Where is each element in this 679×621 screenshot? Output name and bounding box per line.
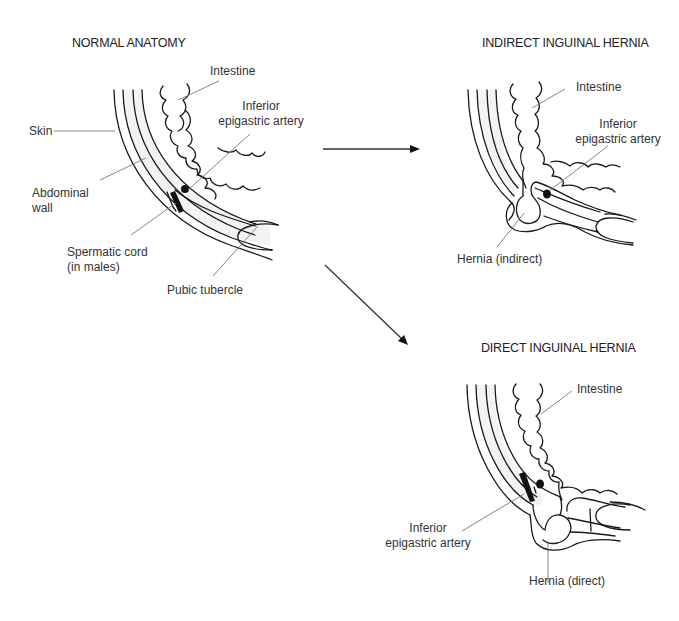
arrow-to-direct — [325, 265, 408, 345]
label-abdominal-wall: Abdominal wall — [32, 186, 89, 216]
label-hernia-indirect: Hernia (indirect) — [457, 252, 542, 267]
label-intestine: Intestine — [210, 64, 255, 79]
label-inferior-epigastric-artery: Inferior epigastric artery — [210, 99, 312, 129]
label-line: wall — [32, 201, 89, 216]
title-indirect-hernia: INDIRECT INGUINAL HERNIA — [482, 36, 649, 50]
label-line: epigastric artery — [210, 114, 312, 129]
label-hernia-direct: Hernia (direct) — [529, 574, 605, 589]
label-inferior-epigastric-artery: Inferior epigastric artery — [567, 117, 669, 147]
label-pubic-tubercle: Pubic tubercle — [167, 283, 243, 298]
label-line: (in males) — [67, 260, 148, 275]
artery-dot — [536, 480, 544, 489]
title-normal-anatomy: NORMAL ANATOMY — [72, 36, 186, 50]
label-skin: Skin — [29, 124, 52, 139]
label-line: Abdominal — [32, 186, 89, 201]
artery-dot — [181, 185, 189, 193]
label-inferior-epigastric-artery: Inferior epigastric artery — [376, 521, 480, 551]
label-intestine: Intestine — [577, 382, 622, 397]
label-line: epigastric artery — [376, 536, 480, 551]
label-intestine: Intestine — [576, 80, 621, 95]
direct-hernia-illustration — [462, 384, 645, 583]
title-direct-hernia: DIRECT INGUINAL HERNIA — [481, 341, 636, 355]
label-line: Inferior — [376, 521, 480, 536]
label-spermatic-cord: Spermatic cord (in males) — [67, 245, 148, 275]
label-line: Spermatic cord — [67, 245, 148, 260]
arrow-to-indirect — [323, 145, 420, 153]
indirect-hernia-illustration — [468, 82, 636, 247]
label-line: Inferior — [567, 117, 669, 132]
label-line: epigastric artery — [567, 132, 669, 147]
label-line: Inferior — [210, 99, 312, 114]
